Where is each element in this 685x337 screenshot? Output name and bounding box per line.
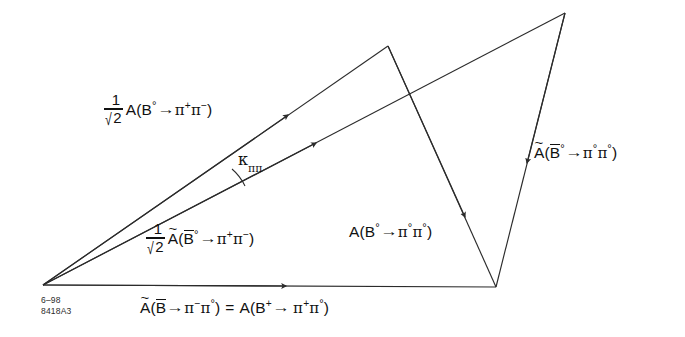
bar-accent-b: B <box>184 230 194 247</box>
fraction-one-over-sqrt-two: 1 √2 <box>104 92 123 127</box>
label-amp-b0-pi0pi0: A(B°→π°π°) <box>349 224 432 240</box>
isospin-triangle-figure: 1 √2 A(B°→π+π−) κππ 1 √2 ~A(B°→π+π−) A(B… <box>0 0 685 337</box>
vector-base-equation-arrow <box>43 285 286 286</box>
decay-arrow-icon: → <box>164 300 187 314</box>
triangle-line-art <box>0 0 685 337</box>
vector-amp-b0bar-pipi-arrow <box>43 143 316 285</box>
decay-arrow-icon: → <box>196 231 219 245</box>
stamp-figure-id: 8418A3 <box>41 306 72 317</box>
decay-arrow-icon: → <box>562 145 585 159</box>
label-angle-kappa-pipi: κππ <box>238 150 262 169</box>
figure-stamp: 6–98 8418A3 <box>41 295 72 317</box>
label-amp-b0bar-pi0pi0: ~A(B°→π°π°) <box>534 144 617 161</box>
decay-arrow-icon: → <box>377 224 400 238</box>
label-amp-b0bar-pipi: 1 √2 ~A(B°→π+π−) <box>146 222 254 257</box>
label-base-equation: ~A(B→π−π°)=A(B+→π+π°) <box>140 299 329 316</box>
square-root-icon: √2 <box>146 239 165 257</box>
stamp-date-code: 6–98 <box>41 295 72 306</box>
decay-arrow-icon: → <box>270 300 293 314</box>
vector-amp-b0-pipi-arrow <box>43 115 288 285</box>
vector-amp-b0bar-pi0pi0-arrow <box>527 13 565 163</box>
square-root-icon: √2 <box>104 110 123 128</box>
tilde-accent-a: ~A <box>140 300 150 316</box>
tilde-accent-a: ~A <box>534 145 544 161</box>
tilde-accent-a: ~A <box>168 231 178 247</box>
fraction-one-over-sqrt-two: 1 √2 <box>146 221 165 256</box>
label-amp-b0-pipi: 1 √2 A(B°→π+π−) <box>104 93 212 128</box>
bar-accent-b: B <box>550 144 560 161</box>
decay-arrow-icon: → <box>154 102 177 116</box>
